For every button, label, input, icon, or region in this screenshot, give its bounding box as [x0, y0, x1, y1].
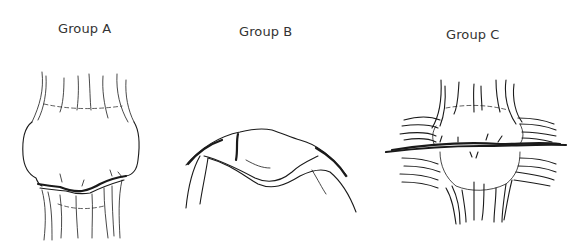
drawing-group-c [386, 80, 566, 224]
drawing-group-a [23, 72, 139, 240]
drawing-group-b [186, 129, 356, 212]
illustrations [0, 0, 588, 252]
